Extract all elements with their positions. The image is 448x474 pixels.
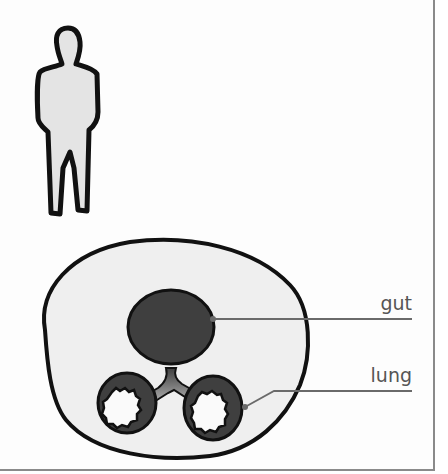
gut-label: gut bbox=[380, 292, 412, 314]
lung-left bbox=[98, 373, 156, 433]
gut-organ bbox=[128, 290, 214, 364]
human-silhouette bbox=[37, 28, 98, 214]
lung-right bbox=[184, 376, 242, 440]
human-outline bbox=[37, 28, 98, 214]
body-cross-section bbox=[44, 240, 308, 458]
lung-label: lung bbox=[371, 364, 412, 386]
diagram-canvas: gut lung bbox=[0, 0, 448, 474]
